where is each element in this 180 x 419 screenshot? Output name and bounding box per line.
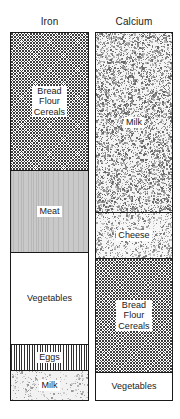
bar-segment-iron-eggs: Eggs (11, 345, 88, 371)
bar-segment-label-calcium-cheese: Cheese (116, 230, 151, 241)
bar-segment-label-iron-meat: Meat (37, 206, 61, 217)
bar-segment-iron-milk: Milk (11, 371, 88, 400)
bar-segment-calcium-cheese: Cheese (96, 213, 172, 259)
bar-segment-iron-meat: Meat (11, 171, 88, 253)
bar-segment-label-iron-eggs: Eggs (37, 352, 62, 363)
bar-segment-iron-vegetables: Vegetables (11, 253, 88, 345)
bar-segment-calcium-bread: Bread Flour Cereals (96, 259, 172, 373)
bar-segment-label-calcium-vegetables: Vegetables (111, 381, 156, 392)
column-title-calcium: Calcium (95, 16, 173, 27)
bar-segment-label-iron-vegetables: Vegetables (27, 293, 72, 304)
stacked-bar-chart: Iron Bread Flour Cereals Meat Vegetables… (0, 0, 180, 419)
bar-segment-label-calcium-bread: Bread Flour Cereals (116, 300, 151, 332)
bar-segment-calcium-vegetables: Vegetables (96, 373, 172, 400)
bar-segment-iron-bread: Bread Flour Cereals (11, 33, 88, 171)
column-title-iron: Iron (10, 16, 89, 27)
bar-segment-label-iron-milk: Milk (39, 380, 59, 391)
bar-segment-calcium-milk: Milk (96, 33, 172, 213)
bar-calcium: Milk Cheese Bread Flour Cereals Vegetabl… (95, 32, 173, 401)
bar-iron: Bread Flour Cereals Meat Vegetables Eggs… (10, 32, 89, 401)
bar-segment-label-calcium-milk: Milk (124, 117, 144, 128)
bar-segment-label-iron-bread: Bread Flour Cereals (32, 86, 67, 118)
